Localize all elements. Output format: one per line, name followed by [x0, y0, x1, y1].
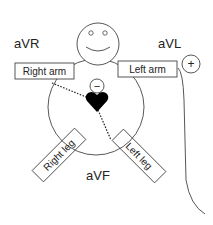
positive-electrode: +	[182, 55, 200, 73]
heart-icon	[86, 92, 109, 112]
right-leg-box: Right leg	[32, 128, 86, 182]
right-arm-label: Right arm	[23, 66, 66, 77]
head-circle	[77, 23, 119, 65]
minus-icon: −	[94, 80, 100, 92]
avf-vector-dotted	[98, 110, 111, 140]
right-leg-label: Right leg	[41, 137, 77, 173]
left-arm-label: Left arm	[129, 64, 166, 75]
right-arm-box: Right arm	[15, 63, 74, 79]
lead-wire	[178, 68, 205, 214]
avf-label: aVF	[86, 168, 110, 183]
avr-vector-dotted	[52, 83, 91, 99]
avr-label: aVR	[14, 36, 39, 51]
avl-label: aVL	[158, 36, 181, 51]
negative-electrode: −	[90, 79, 104, 93]
head	[77, 23, 119, 65]
einthoven-augmented-leads-diagram: Right arm Left arm + − Right leg Left le…	[0, 0, 213, 225]
plus-icon: +	[187, 57, 194, 71]
left-arm-box: Left arm	[118, 61, 177, 77]
left-leg-box: Left leg	[112, 129, 166, 183]
